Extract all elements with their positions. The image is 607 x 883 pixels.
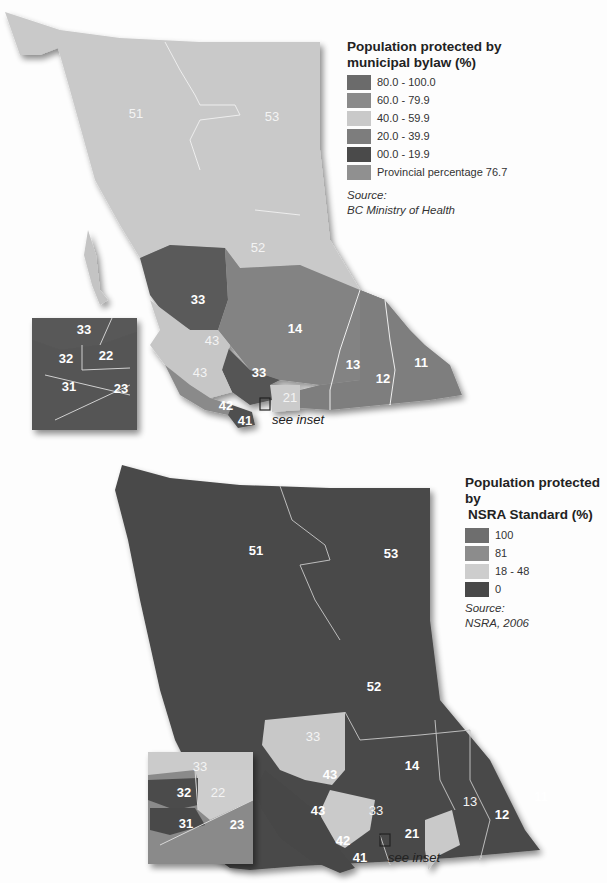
source-value: NSRA, 2006 (465, 616, 607, 631)
region-label-41: 41 (238, 413, 252, 428)
region-label-52: 52 (251, 240, 265, 255)
legend-nsra-standard: Population protected by NSRA Standard (%… (465, 475, 607, 631)
inset-label-33: 33 (77, 322, 91, 337)
source-label: Source: (347, 188, 507, 203)
legend-swatch (465, 564, 489, 579)
legend-item: 00.0 - 19.9 (347, 146, 507, 162)
region-label-21: 21 (283, 390, 297, 405)
region-label-12-bottom: 12 (495, 807, 509, 822)
legend-item: 0 (465, 581, 607, 597)
region-label-53: 53 (265, 109, 279, 124)
legend-swatch (347, 75, 371, 90)
legend-title: Population protected by municipal bylaw … (347, 39, 507, 71)
region-label-33: 33 (191, 292, 205, 307)
region-label-33b-bottom: 33 (369, 803, 383, 818)
legend-label: 40.0 - 59.9 (377, 112, 430, 124)
maps-canvas: 51 53 52 33 14 43 43 33 13 12 11 21 42 4… (0, 0, 607, 883)
legend-swatch (465, 582, 489, 597)
region-label-11: 11 (414, 355, 428, 370)
legend-label: 00.0 - 19.9 (377, 148, 430, 160)
legend-swatch (347, 129, 371, 144)
legend-title-line1: Population protected by (465, 475, 607, 507)
legend-item: 60.0 - 79.9 (347, 92, 507, 108)
legend-swatch (347, 111, 371, 126)
legend-item: 81 (465, 545, 607, 561)
legend-label: 60.0 - 79.9 (377, 94, 430, 106)
legend-item: 80.0 - 100.0 (347, 74, 507, 90)
legend-item: 40.0 - 59.9 (347, 110, 507, 126)
region-label-13-bottom: 13 (463, 794, 477, 809)
legend-municipal-bylaw: Population protected by municipal bylaw … (347, 39, 507, 218)
region-label-43-bottom: 43 (323, 767, 337, 782)
inset-label-31: 31 (62, 379, 76, 394)
region-label-14-bottom: 14 (405, 758, 420, 773)
inset-label-31-bottom: 31 (179, 816, 193, 831)
legend-source: Source: BC Ministry of Health (347, 188, 507, 218)
legend-label: 81 (495, 547, 507, 559)
legend-swatch (347, 93, 371, 108)
source-label: Source: (465, 601, 607, 616)
region-label-14: 14 (288, 321, 303, 336)
legend-label: 100 (495, 529, 513, 541)
legend-title-line2: municipal bylaw (%) (347, 55, 507, 71)
legend-item: 100 (465, 527, 607, 543)
legend-swatch (465, 528, 489, 543)
source-value: BC Ministry of Health (347, 203, 507, 218)
see-inset-label-bottom: see inset (388, 850, 440, 865)
region-label-33b: 33 (252, 365, 266, 380)
legend-source: Source: NSRA, 2006 (465, 601, 607, 631)
legend-label: 0 (495, 583, 501, 595)
legend-items: 100 81 18 - 48 0 (465, 527, 607, 597)
legend-item: Provincial percentage 76.7 (347, 164, 507, 180)
region-label-43: 43 (205, 333, 219, 348)
inset-label-23: 23 (114, 381, 128, 396)
legend-item: 18 - 48 (465, 563, 607, 579)
region-label-43b-bottom: 43 (311, 803, 325, 818)
legend-label: 80.0 - 100.0 (377, 76, 436, 88)
legend-title-line1: Population protected by (347, 39, 507, 55)
region-label-41-bottom: 41 (353, 850, 367, 865)
legend-label: 18 - 48 (495, 565, 529, 577)
region-label-21-bottom: 21 (405, 826, 419, 841)
inset-label-22-bottom: 22 (211, 785, 225, 800)
region-33a (140, 245, 228, 330)
inset-label-22: 22 (99, 348, 113, 363)
region-label-12: 12 (376, 371, 390, 386)
legend-title-line2: NSRA Standard (%) (465, 507, 607, 523)
region-label-51-bottom: 51 (249, 543, 263, 558)
legend-swatch (347, 147, 371, 162)
inset-label-32-bottom: 32 (177, 785, 191, 800)
legend-title: Population protected by NSRA Standard (%… (465, 475, 607, 523)
region-label-42-bottom: 42 (336, 833, 350, 848)
inset-label-23-bottom: 23 (230, 817, 244, 832)
legend-swatch (465, 546, 489, 561)
inset-label-32: 32 (59, 351, 73, 366)
legend-label: 20.0 - 39.9 (377, 130, 430, 142)
region-label-13: 13 (346, 357, 360, 372)
region-label-43b: 43 (193, 365, 207, 380)
region-label-33-bottom: 33 (306, 729, 320, 744)
region-label-52-bottom: 52 (367, 679, 381, 694)
island-haida-gwaii (84, 230, 108, 305)
legend-items: 80.0 - 100.0 60.0 - 79.9 40.0 - 59.9 20.… (347, 74, 507, 180)
region-label-53-bottom: 53 (384, 546, 398, 561)
region-label-42: 42 (219, 398, 233, 413)
region-label-51: 51 (129, 106, 143, 121)
region-label-11-bottom: 11 (534, 789, 548, 804)
see-inset-label: see inset (272, 412, 324, 427)
legend-label: Provincial percentage 76.7 (377, 166, 507, 178)
legend-item: 20.0 - 39.9 (347, 128, 507, 144)
legend-swatch (347, 165, 371, 180)
inset-label-33-bottom: 33 (193, 759, 207, 774)
